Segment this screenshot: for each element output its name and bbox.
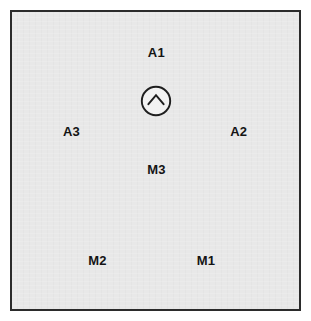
node-label-m2: M2	[88, 253, 106, 266]
diagram-canvas: A1 A3 A2 M3 M2 M1	[0, 0, 311, 321]
node-label-a1: A1	[148, 45, 165, 58]
node-label-m3: M3	[147, 162, 165, 175]
node-label-a3: A3	[63, 125, 80, 138]
diagram-plate: A1 A3 A2 M3 M2 M1	[10, 10, 301, 311]
node-label-m1: M1	[197, 253, 215, 266]
north-arrow-icon	[140, 85, 172, 117]
north-marker-circle	[142, 86, 170, 114]
node-label-a2: A2	[230, 125, 247, 138]
